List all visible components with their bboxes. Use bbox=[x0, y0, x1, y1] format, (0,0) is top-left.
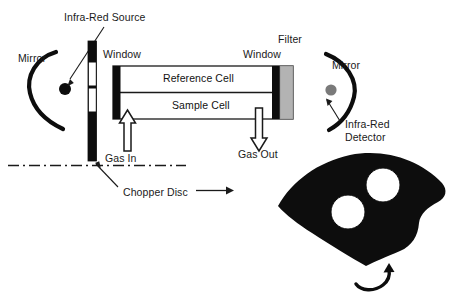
chopper-disc-hole-upper bbox=[366, 168, 400, 202]
chopper-blade-slot-lower bbox=[89, 89, 96, 112]
label-filter: Filter bbox=[278, 33, 302, 45]
infra-red-detector-icon bbox=[325, 84, 336, 95]
label-window-right: Window bbox=[243, 48, 281, 60]
label-infra-red-detector-line2: Detector bbox=[345, 131, 385, 143]
window-right-icon bbox=[272, 66, 280, 119]
chopper-disc-pointer-arrowhead bbox=[226, 187, 234, 195]
infra-red-source-leader bbox=[70, 27, 104, 79]
label-gas-out: Gas Out bbox=[238, 148, 278, 160]
rotation-arrow-icon bbox=[356, 270, 389, 290]
label-chopper-disc: Chopper Disc bbox=[123, 186, 188, 198]
filter-icon bbox=[280, 66, 293, 119]
infra-red-detector-leader-arrowhead bbox=[326, 99, 332, 106]
label-gas-in: Gas In bbox=[105, 152, 137, 164]
label-mirror-right: Mirror bbox=[332, 59, 360, 71]
chopper-disc-leader bbox=[96, 164, 118, 187]
infra-red-analyser-diagram: Infra-Red Source Mirror Window Reference… bbox=[0, 0, 468, 306]
label-window-left: Window bbox=[103, 48, 141, 60]
label-reference-cell: Reference Cell bbox=[163, 72, 234, 84]
label-infra-red-detector-line1: Infra-Red bbox=[345, 118, 390, 130]
diagram-canvas bbox=[0, 0, 468, 306]
label-sample-cell: Sample Cell bbox=[172, 99, 230, 111]
window-left-icon bbox=[113, 66, 121, 119]
infra-red-source-leader-arrowhead bbox=[67, 79, 74, 87]
rotation-arrow-head bbox=[384, 263, 395, 273]
chopper-disc-hole-lower bbox=[331, 195, 365, 229]
label-mirror-left: Mirror bbox=[18, 52, 46, 64]
label-infra-red-source: Infra-Red Source bbox=[64, 11, 146, 23]
chopper-blade-slot-upper bbox=[89, 63, 96, 86]
